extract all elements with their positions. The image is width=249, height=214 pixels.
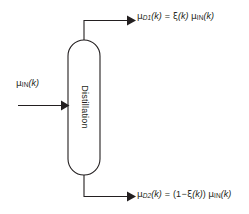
bottom-output-argument: (k)	[151, 189, 162, 199]
xi-argument: (k)	[192, 189, 203, 199]
bottom-output-rhs-subscript: IN	[214, 192, 221, 199]
top-output-flow-label: μD1(k)=ξ(k)μIN(k)	[137, 12, 214, 22]
diagram-canvas	[0, 0, 249, 214]
input-argument: (k)	[28, 78, 39, 88]
close-paren: )	[203, 189, 206, 199]
bottom-output-subscript: D2	[143, 192, 152, 199]
input-flow-label: μIN(k)	[16, 79, 39, 89]
bottom-output-flow-line	[84, 175, 128, 197]
bottom-output-rhs-argument: (k)	[221, 189, 232, 199]
distillation-block-diagram: Distillation μIN(k) μD1(k)=ξ(k)μIN(k) μD…	[0, 0, 249, 214]
top-output-flow-arrowhead	[127, 16, 136, 26]
top-output-argument: (k)	[151, 11, 162, 21]
bottom-output-flow-label: μD2(k)=(1−ξ(k))μIN(k)	[137, 190, 231, 200]
bottom-output-flow-arrowhead	[127, 192, 136, 202]
equals-sign: =	[164, 189, 170, 199]
top-output-rhs-argument: (k)	[203, 11, 214, 21]
distillation-column-label: Distillation	[80, 85, 89, 128]
top-output-subscript: D1	[143, 14, 152, 21]
xi-argument: (k)	[178, 11, 189, 21]
top-output-flow-line	[84, 21, 128, 41]
equals-sign: =	[164, 11, 170, 21]
